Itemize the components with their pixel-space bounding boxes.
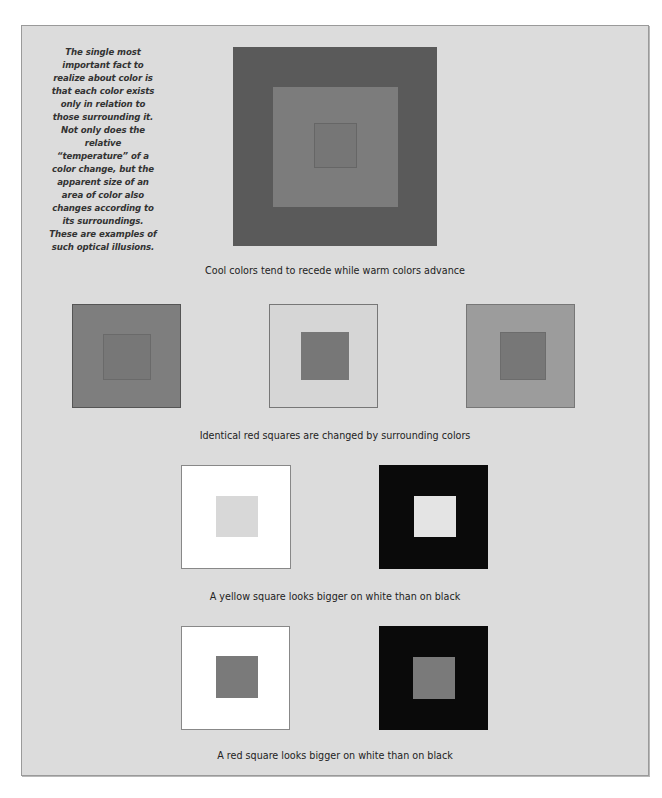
figure-2-square-1-inner	[103, 334, 151, 380]
figure-3-yellow-square-on-black	[414, 496, 456, 537]
figure-1-inner-square	[314, 123, 357, 168]
intro-text: The single most important fact to realiz…	[48, 46, 158, 254]
figure-3-caption: A yellow square looks bigger on white th…	[21, 591, 649, 602]
figure-1-caption: Cool colors tend to recede while warm co…	[21, 265, 649, 276]
figure-4-caption: A red square looks bigger on white than …	[21, 750, 649, 761]
figure-3-yellow-square-on-white	[216, 496, 258, 537]
figure-4-red-square-on-white	[216, 656, 258, 698]
figure-2-caption: Identical red squares are changed by sur…	[21, 430, 649, 441]
figure-2-square-3-inner	[500, 332, 546, 380]
figure-2-square-2-inner	[301, 332, 349, 380]
figure-4-red-square-on-black	[413, 657, 455, 699]
